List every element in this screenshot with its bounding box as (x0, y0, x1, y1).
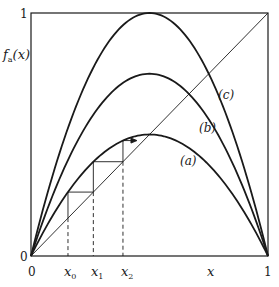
curve-label-b: (b) (199, 121, 216, 135)
x0-label: x0 (64, 264, 76, 281)
cobweb-path (68, 141, 123, 219)
curve-a (31, 135, 268, 257)
curve-label-c: (c) (218, 88, 234, 102)
x2-label: x2 (121, 264, 133, 281)
y-axis-label: fa(x) (2, 47, 30, 64)
x-axis-label: x (207, 264, 215, 279)
x1-label: x1 (91, 264, 103, 281)
y-tick-0: 0 (20, 250, 28, 264)
iterate-dashed-lines (68, 162, 123, 256)
y-tick-1: 1 (20, 7, 28, 21)
x-tick-1: 1 (264, 265, 272, 279)
logistic-map-figure: 1 0 fa(x) 0 1 x x0 x1 x2 (c) (b) (a) (0, 0, 279, 287)
curve-label-a: (a) (180, 154, 197, 168)
x-tick-0: 0 (28, 265, 36, 279)
